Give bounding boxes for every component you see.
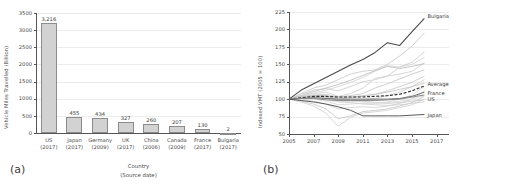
- series-line-series-g4: [289, 70, 424, 99]
- x-tick-label: 2007: [303, 138, 325, 144]
- series-label-japan: Japan: [427, 112, 441, 118]
- bar-value-label: 260: [139, 117, 165, 123]
- series-line-series-g12: [289, 99, 424, 126]
- y-tick: [287, 29, 290, 30]
- panel-b-tag: (b): [263, 163, 279, 176]
- category-label: Bulgaria(2017): [211, 137, 245, 151]
- series-line-series-g6: [289, 76, 424, 99]
- gridline: [36, 64, 241, 65]
- x-axis-subtitle: (Source date): [36, 172, 241, 178]
- gridline: [289, 29, 449, 30]
- series-line-average: [289, 86, 424, 99]
- y-tick-label: 2500: [6, 44, 32, 50]
- x-tick: [338, 134, 339, 137]
- x-tick-label: 2013: [376, 138, 398, 144]
- y-tick-label: 225: [261, 9, 285, 15]
- x-tick-label: 2011: [352, 138, 374, 144]
- bar: [92, 118, 108, 133]
- y-tick: [34, 133, 37, 134]
- y-tick: [287, 47, 290, 48]
- bar: [41, 23, 57, 133]
- x-tick: [289, 134, 290, 137]
- bar: [195, 129, 211, 133]
- y-tick: [34, 116, 37, 117]
- bar: [118, 122, 134, 133]
- gridline: [289, 12, 449, 13]
- y-tick-label: 0: [6, 130, 32, 136]
- gridline: [36, 13, 241, 14]
- gridline: [289, 117, 449, 118]
- gridline: [289, 99, 449, 100]
- bar: [143, 124, 159, 133]
- x-tick: [387, 134, 388, 137]
- x-tick-label: 2015: [401, 138, 423, 144]
- y-tick-label: 125: [261, 78, 285, 84]
- x-axis-title: Country: [36, 163, 241, 169]
- gridline: [36, 47, 241, 48]
- y-tick: [34, 82, 37, 83]
- y-tick-label: 50: [261, 131, 285, 137]
- series-line-france: [289, 92, 424, 99]
- y-tick: [287, 64, 290, 65]
- bar-value-label: 434: [87, 111, 113, 117]
- y-axis-title: Vehicle Miles Travelled (Billion): [3, 46, 9, 129]
- series-line-series-g1: [289, 33, 424, 99]
- y-axis-line: [289, 12, 290, 134]
- y-tick-label: 3500: [6, 10, 32, 16]
- y-tick: [287, 117, 290, 118]
- series-line-japan: [289, 99, 424, 116]
- y-tick: [34, 64, 37, 65]
- y-tick: [34, 99, 37, 100]
- gridline: [289, 47, 449, 48]
- y-axis-line: [36, 13, 37, 133]
- gridline: [289, 82, 449, 83]
- y-tick-label: 100: [261, 96, 285, 102]
- panel-a-tag: (a): [10, 163, 25, 176]
- series-line-series-g2: [289, 52, 424, 99]
- series-label-us: US: [427, 96, 434, 102]
- y-tick: [34, 13, 37, 14]
- bar: [66, 117, 82, 133]
- gridline: [36, 99, 241, 100]
- y-tick-label: 3000: [6, 27, 32, 33]
- series-label-bulgaria: Bulgaria: [427, 13, 449, 19]
- bar-value-label: 3,216: [36, 16, 62, 22]
- series-line-series-g9: [289, 87, 424, 105]
- x-tick: [314, 134, 315, 137]
- category-source-date: (2017): [211, 144, 245, 151]
- x-tick-label: 2009: [327, 138, 349, 144]
- x-axis-line: [36, 133, 241, 134]
- y-tick-label: 75: [261, 113, 285, 119]
- bar-value-label: 130: [190, 122, 216, 128]
- x-tick: [437, 134, 438, 137]
- y-tick-label: 200: [261, 26, 285, 32]
- gridline: [36, 30, 241, 31]
- series-line-series-g7: [289, 80, 424, 101]
- bar-value-label: 327: [113, 115, 139, 121]
- figure-container: (a) 0500100015002000250030003500Vehicle …: [0, 0, 506, 194]
- bar: [169, 126, 185, 133]
- gridline: [289, 64, 449, 65]
- y-tick-label: 1500: [6, 78, 32, 84]
- panel-a-bar-chart: (a) 0500100015002000250030003500Vehicle …: [0, 0, 253, 194]
- gridline: [36, 82, 241, 83]
- x-tick: [412, 134, 413, 137]
- x-tick-label: 2005: [278, 138, 300, 144]
- y-tick: [287, 82, 290, 83]
- series-line-series-g8: [289, 83, 424, 99]
- bar-value-label: 207: [164, 119, 190, 125]
- y-tick-label: 2000: [6, 61, 32, 67]
- y-tick: [287, 12, 290, 13]
- y-tick: [287, 99, 290, 100]
- panel-b-line-chart: (b) 507510012515017520022520052007200920…: [253, 0, 506, 194]
- y-tick-label: 500: [6, 113, 32, 119]
- category-name: Bulgaria: [211, 137, 245, 144]
- x-tick: [363, 134, 364, 137]
- y-axis-title: Indexed VMT (2005 = 100): [257, 56, 263, 128]
- y-tick-label: 1000: [6, 95, 32, 101]
- bar-value-label: 455: [62, 110, 88, 116]
- y-tick-label: 175: [261, 44, 285, 50]
- x-tick-label: 2017: [426, 138, 448, 144]
- y-tick: [34, 30, 37, 31]
- series-label-average: Average: [427, 81, 448, 87]
